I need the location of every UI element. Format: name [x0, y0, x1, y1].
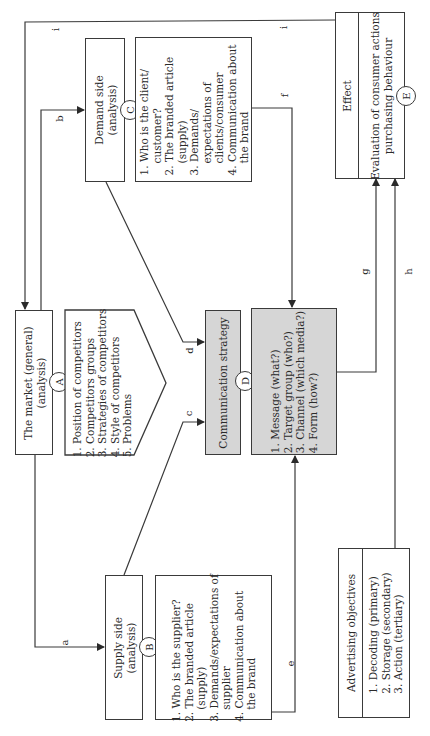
edge-f	[252, 108, 292, 307]
supply-subtitle: (analysis)	[124, 617, 137, 679]
edge-b	[41, 110, 84, 310]
supply-item: 1. Who is the supplier?	[170, 574, 183, 722]
demand-item: expectations of	[200, 44, 213, 175]
market-box: The market (general) (analysis)	[15, 310, 53, 455]
edge-label-g: g	[359, 268, 370, 274]
demand-list: 1. Who is the client/ customer? 2. The b…	[135, 37, 252, 182]
market-list: 1. Position of competitors 2. Competitor…	[64, 310, 139, 455]
demand-item: 3. Demands/	[187, 44, 200, 175]
node-badge-e: E	[396, 86, 416, 106]
edge-g	[337, 179, 376, 372]
supply-list: 1. Who is the supplier? 2. The branded a…	[155, 575, 272, 720]
strategy-item: 1. Message (what?)	[269, 310, 282, 452]
edge-label-i-right: i	[278, 26, 289, 29]
supply-title: Supply side	[112, 617, 125, 679]
demand-subtitle: (analysis)	[105, 75, 118, 144]
objectives-item: 3. Action (tertiary)	[392, 572, 405, 693]
edge-label-d: d	[184, 347, 195, 353]
edge-label-b: b	[54, 115, 65, 121]
supply-item: (supply)	[195, 574, 208, 722]
market-item: 4. Style of competitors	[108, 308, 121, 457]
edge-label-c: c	[183, 411, 194, 417]
market-item: 3. Strategies of competitors	[95, 308, 108, 457]
supply-box: Supply side (analysis)	[105, 575, 143, 720]
market-title: The market (general)	[22, 326, 35, 439]
strategy-item: 4. Form (how?)	[307, 310, 320, 452]
demand-item: 4. Communication about	[225, 44, 238, 175]
demand-item: (supply)	[175, 44, 188, 175]
edge-label-e: e	[285, 661, 296, 667]
supply-item: 3. Demands/expectations of	[207, 574, 220, 722]
objectives-item: 1. Decoding (primary)	[367, 572, 380, 693]
demand-item: 2. The branded article	[162, 44, 175, 175]
strategy-list: 1. Message (what?) 2. Target group (who?…	[251, 308, 337, 455]
demand-box: Demand side (analysis)	[85, 38, 125, 182]
demand-item: 1. Who is the client/	[137, 44, 150, 175]
supply-item: the brand	[245, 574, 258, 722]
edge-label-a: a	[59, 640, 70, 646]
market-subtitle: (analysis)	[34, 326, 47, 439]
strategy-item: 3. Channel (which media?)	[294, 310, 307, 452]
effect-title: Effect	[341, 80, 354, 111]
market-item: 1. Position of competitors	[70, 308, 83, 457]
supply-item: 2. The branded article	[182, 574, 195, 722]
effect-box: Effect Evaluation of consumer actions pu…	[335, 12, 405, 179]
edge-a	[35, 455, 104, 647]
objectives-box: Advertising objectives 1. Decoding (prim…	[338, 548, 410, 718]
demand-title: Demand side	[93, 75, 106, 144]
market-item: 5. Problems	[120, 308, 133, 457]
edge-label-h: h	[403, 268, 414, 274]
edge-label-i-left: i	[50, 28, 61, 31]
objectives-item: 2. Storage (secondary)	[379, 572, 392, 693]
effect-item: Evaluation of consumer actions	[369, 12, 382, 180]
edge-e	[272, 456, 295, 712]
strategy-title: Communication strategy	[217, 317, 230, 448]
demand-item: clients/consumer	[212, 44, 225, 175]
demand-item: the brand	[237, 44, 250, 175]
edge-label-f: f	[279, 94, 290, 98]
effect-item: purchasing behaviour	[381, 12, 394, 180]
strategy-item: 2. Target group (who?)	[282, 310, 295, 452]
supply-item: supplier	[220, 574, 233, 722]
objectives-title: Advertising objectives	[344, 574, 357, 692]
demand-item: customer?	[150, 44, 163, 175]
market-item: 2. Competitors groups	[83, 308, 96, 457]
supply-item: 4. Communication about	[232, 574, 245, 722]
